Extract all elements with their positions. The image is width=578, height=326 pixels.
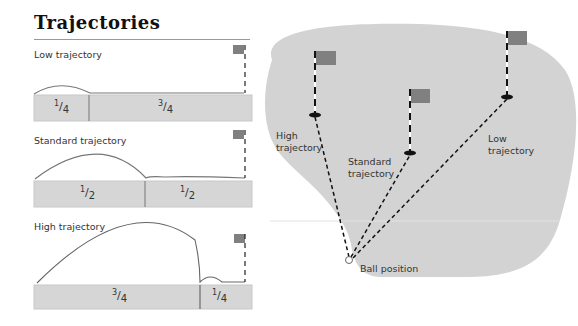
panel-label-low: Low trajectory	[34, 49, 102, 60]
bar-standard	[34, 181, 252, 207]
map-label-high: Hightrajectory	[276, 130, 322, 154]
panel-label-high: High trajectory	[34, 221, 105, 232]
flag-standard	[411, 89, 430, 103]
fraction-low-1: 1/4	[54, 99, 69, 115]
ball-position-marker	[346, 257, 353, 264]
fraction-standard-1: 1/2	[80, 185, 95, 201]
panel-label-standard: Standard trajectory	[34, 135, 126, 146]
flag-high	[316, 51, 336, 65]
fraction-low-2: 3/4	[158, 99, 173, 115]
fraction-high-1: 3/4	[112, 288, 127, 304]
map-label-standard: Standardtrajectory	[348, 156, 394, 180]
fraction-high-2: 1/4	[212, 288, 227, 304]
fraction-standard-2: 1/2	[180, 185, 195, 201]
map-label-low: Lowtrajectory	[488, 133, 534, 157]
map-label-ball-position: Ball position	[360, 263, 418, 275]
flag-low	[508, 31, 527, 45]
